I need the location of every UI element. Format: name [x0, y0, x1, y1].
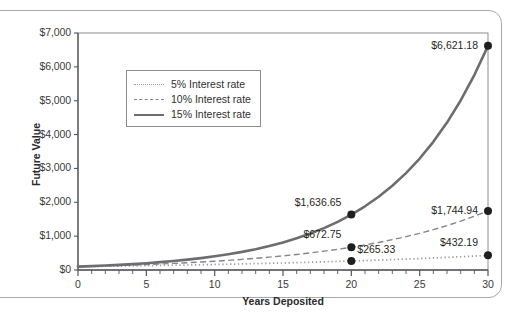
- legend-line-dashed-icon: [134, 94, 164, 104]
- y-axis-tick-label: $3,000: [39, 161, 71, 173]
- data-point-marker: [347, 211, 355, 219]
- chart-screenshot: $0$1,000$2,000$3,000$4,000$5,000$6,000$7…: [0, 0, 530, 315]
- legend-label: 15% Interest rate: [171, 108, 251, 120]
- y-axis-title: Future Value: [30, 122, 42, 185]
- series-line: [78, 211, 488, 267]
- data-point-marker: [484, 207, 492, 215]
- x-axis-title: Years Deposited: [203, 295, 363, 307]
- data-point-label: $1,636.65: [295, 196, 342, 208]
- y-axis-tick-label: $4,000: [39, 128, 71, 140]
- y-axis-tick-label: $7,000: [39, 26, 71, 38]
- data-point-marker: [484, 251, 492, 259]
- y-axis-tick-label: $6,000: [39, 60, 71, 72]
- data-point-marker: [347, 257, 355, 265]
- legend-label: 5% Interest rate: [171, 78, 245, 90]
- y-axis-tick-label: $1,000: [39, 229, 71, 241]
- legend-line-dotted-icon: [134, 79, 164, 89]
- legend-line-solid-icon: [134, 109, 164, 119]
- x-axis-tick-label: 10: [195, 278, 235, 290]
- legend-label: 10% Interest rate: [171, 93, 251, 105]
- x-axis-tick-label: 20: [331, 278, 371, 290]
- data-point-label: $1,744.94: [431, 204, 478, 216]
- data-point-label: $432.19: [440, 236, 478, 248]
- data-point-label: $265.33: [357, 243, 395, 255]
- legend-item-5: 5% Interest rate: [134, 76, 251, 91]
- legend-item-10: 10% Interest rate: [134, 91, 251, 106]
- y-axis-tick-label: $0: [60, 263, 71, 275]
- x-axis-tick-label: 25: [400, 278, 440, 290]
- x-axis-tick-label: 30: [468, 278, 508, 290]
- data-point-label: $672.75: [303, 228, 341, 240]
- data-point-marker: [484, 42, 492, 50]
- y-axis-tick-label: $5,000: [39, 94, 71, 106]
- legend-item-15: 15% Interest rate: [134, 106, 251, 121]
- x-axis-tick-label: 0: [58, 278, 98, 290]
- chart-legend: 5% Interest rate 10% Interest rate 15% I…: [126, 70, 261, 127]
- y-axis-tick-label: $2,000: [39, 195, 71, 207]
- data-point-label: $6,621.18: [431, 39, 478, 51]
- x-axis-tick-label: 5: [126, 278, 166, 290]
- chart-plot-area: $0$1,000$2,000$3,000$4,000$5,000$6,000$7…: [0, 0, 530, 315]
- data-point-marker: [347, 243, 355, 251]
- x-axis-tick-label: 15: [263, 278, 303, 290]
